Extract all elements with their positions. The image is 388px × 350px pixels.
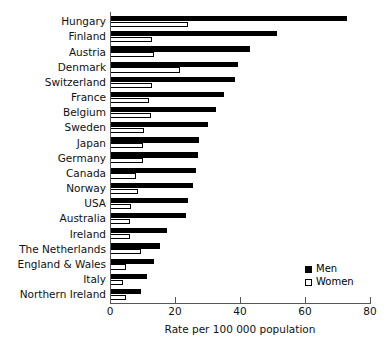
chart-row: Finland <box>110 29 370 44</box>
category-label: Canada <box>66 166 110 181</box>
chart-row: Austria <box>110 44 370 59</box>
chart-row: Hungary <box>110 14 370 29</box>
bar-women <box>110 113 151 118</box>
chart-row: Belgium <box>110 105 370 120</box>
bar-women <box>110 37 152 42</box>
bar-women <box>110 22 188 27</box>
chart-row: Sweden <box>110 120 370 135</box>
x-tick <box>110 297 111 304</box>
bar-men <box>110 122 208 127</box>
bar-men <box>110 107 216 112</box>
chart-row: Japan <box>110 135 370 150</box>
bar-women <box>110 234 130 239</box>
chart-row: Australia <box>110 211 370 226</box>
legend-swatch-women-icon <box>305 279 312 286</box>
category-label: Austria <box>69 44 110 59</box>
bar-men <box>110 31 277 36</box>
chart-row: Denmark <box>110 59 370 74</box>
bar-women <box>110 83 152 88</box>
bar-women <box>110 295 126 300</box>
category-label: Germany <box>58 150 110 165</box>
bar-men <box>110 274 147 279</box>
x-tick-label: 0 <box>107 306 114 317</box>
legend-label-women: Women <box>316 276 354 288</box>
bar-men <box>110 92 224 97</box>
bar-men <box>110 183 193 188</box>
bar-men <box>110 289 141 294</box>
category-label: France <box>71 90 110 105</box>
bar-men <box>110 198 188 203</box>
category-label: Ireland <box>70 226 110 241</box>
bar-women <box>110 173 136 178</box>
bar-women <box>110 249 141 254</box>
bar-men <box>110 213 186 218</box>
category-label: USA <box>84 196 110 211</box>
bar-men <box>110 77 235 82</box>
bar-men <box>110 46 250 51</box>
y-axis-line <box>110 12 111 304</box>
bar-men <box>110 168 196 173</box>
bar-women <box>110 280 123 285</box>
chart-legend: Men Women <box>305 263 354 289</box>
category-label: Australia <box>60 211 110 226</box>
category-label: Italy <box>83 272 110 287</box>
chart-row: Ireland <box>110 226 370 241</box>
bar-women <box>110 189 138 194</box>
x-tick-label: 40 <box>233 306 246 317</box>
bar-men <box>110 259 154 264</box>
bar-men <box>110 243 160 248</box>
bar-men <box>110 228 167 233</box>
bar-women <box>110 219 130 224</box>
category-label: Hungary <box>61 14 110 29</box>
x-axis-title: Rate per 100 000 population <box>110 323 370 335</box>
x-tick <box>305 297 306 304</box>
bar-chart: HungaryFinlandAustriaDenmarkSwitzerlandF… <box>0 0 388 350</box>
bar-women <box>110 128 144 133</box>
plot-area: HungaryFinlandAustriaDenmarkSwitzerlandF… <box>110 14 370 302</box>
chart-row: Norway <box>110 181 370 196</box>
legend-swatch-men-icon <box>305 266 312 273</box>
bar-women <box>110 52 154 57</box>
x-tick-label: 60 <box>298 306 311 317</box>
bar-women <box>110 98 149 103</box>
bar-men <box>110 16 347 21</box>
chart-row: The Netherlands <box>110 241 370 256</box>
bar-men <box>110 137 199 142</box>
chart-row: France <box>110 90 370 105</box>
category-label: Denmark <box>58 59 110 74</box>
bar-women <box>110 264 126 269</box>
category-label: Finland <box>68 29 110 44</box>
chart-row: Switzerland <box>110 75 370 90</box>
bar-men <box>110 152 198 157</box>
chart-row: Canada <box>110 166 370 181</box>
x-tick-label: 80 <box>363 306 376 317</box>
chart-row: Germany <box>110 150 370 165</box>
category-label: Switzerland <box>45 75 110 90</box>
legend-entry-women: Women <box>305 276 354 288</box>
x-tick-label: 20 <box>168 306 181 317</box>
category-label: Sweden <box>65 120 111 135</box>
x-tick <box>240 297 241 304</box>
bar-women <box>110 204 131 209</box>
category-label: Northern Ireland <box>20 287 110 302</box>
bar-men <box>110 62 238 67</box>
x-tick <box>370 297 371 304</box>
bar-women <box>110 158 143 163</box>
category-label: The Netherlands <box>19 241 110 256</box>
x-tick <box>175 297 176 304</box>
category-label: Japan <box>77 135 110 150</box>
bar-women <box>110 67 180 72</box>
legend-label-men: Men <box>316 263 337 275</box>
category-label: Norway <box>66 181 110 196</box>
legend-entry-men: Men <box>305 263 354 275</box>
category-label: Belgium <box>63 105 110 120</box>
bar-women <box>110 143 143 148</box>
chart-row: USA <box>110 196 370 211</box>
category-label: England & Wales <box>18 257 110 272</box>
